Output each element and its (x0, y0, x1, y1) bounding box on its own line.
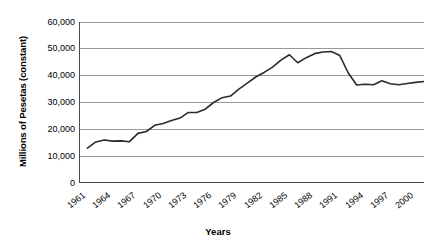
x-axis-tick-labels: 1961196419671970197319761979198219851988… (0, 0, 436, 244)
x-axis-title: Years (0, 226, 436, 237)
chart-figure: Millions of Pesetas (constant) 010,00020… (0, 0, 436, 244)
